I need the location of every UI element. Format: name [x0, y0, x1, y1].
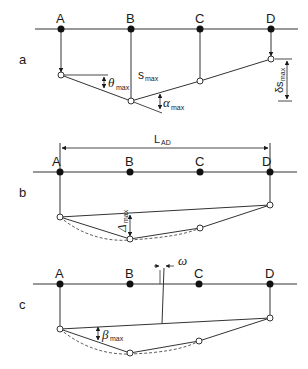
settled-node-b [127, 236, 133, 242]
s-max-symbol: s [138, 68, 144, 82]
settlement-diagram: A B C D a θ max s max α max δs max L AD … [0, 0, 308, 369]
point-label-d: D [265, 266, 274, 281]
point-label-a: A [56, 11, 65, 26]
settled-node-b [127, 350, 133, 356]
point-label-d: D [262, 154, 271, 169]
delta-s-symbol: δs [273, 81, 285, 93]
s-max-subscript: max [145, 75, 159, 82]
alpha-extension-line [131, 101, 162, 113]
panel-c: ω β max A B C D c [19, 253, 297, 356]
panel-label-c: c [19, 297, 26, 312]
point-label-b: B [126, 11, 135, 26]
delta-s-label: δs max [273, 67, 286, 93]
node-b [127, 169, 134, 176]
settled-node-d [267, 315, 273, 321]
theta-symbol: θ [108, 75, 115, 90]
theta-subscript: max [116, 84, 130, 91]
point-label-a: A [55, 266, 64, 281]
point-label-b: B [125, 266, 134, 281]
beta-subscript: max [110, 335, 124, 342]
chord-line [60, 318, 270, 329]
settled-node-a [57, 214, 63, 220]
point-label-b: B [125, 154, 134, 169]
panel-label-a: a [19, 52, 27, 67]
settled-node-c [196, 338, 202, 344]
node-c [197, 26, 204, 33]
panel-b: L AD Δ max A B C D b [19, 133, 297, 242]
panel-a: A B C D a θ max s max α max δs max [19, 11, 298, 113]
node-a [57, 169, 64, 176]
settled-node-c [197, 225, 203, 231]
delta-symbol: Δ [114, 224, 129, 233]
node-d [268, 26, 275, 33]
length-symbol: L [154, 133, 160, 145]
settled-node-a [58, 72, 64, 78]
node-a [57, 281, 64, 288]
omega-symbol: ω [178, 253, 187, 268]
settled-node-b [128, 98, 134, 104]
node-c [196, 281, 203, 288]
delta-max-label: Δ max [114, 209, 129, 233]
settled-node-a [57, 326, 63, 332]
node-d [267, 281, 274, 288]
node-b [127, 281, 134, 288]
panel-label-b: b [19, 185, 26, 200]
settled-node-d [267, 202, 273, 208]
alpha-symbol: α [163, 95, 171, 110]
point-label-d: D [266, 11, 275, 26]
node-a [58, 26, 65, 33]
point-label-a: A [52, 154, 61, 169]
settled-node-d [268, 56, 274, 62]
deformed-profile [60, 205, 270, 239]
node-b [128, 26, 135, 33]
delta-s-subscript: max [279, 67, 286, 81]
node-d [267, 169, 274, 176]
tilt-line [162, 268, 164, 324]
beta-symbol: β [101, 327, 109, 342]
point-label-c: C [195, 154, 204, 169]
point-label-c: C [195, 11, 204, 26]
alpha-subscript: max [171, 104, 185, 111]
point-label-c: C [194, 266, 203, 281]
delta-subscript: max [122, 209, 129, 223]
length-subscript: AD [161, 139, 171, 146]
node-c [197, 169, 204, 176]
settled-node-c [197, 78, 203, 84]
